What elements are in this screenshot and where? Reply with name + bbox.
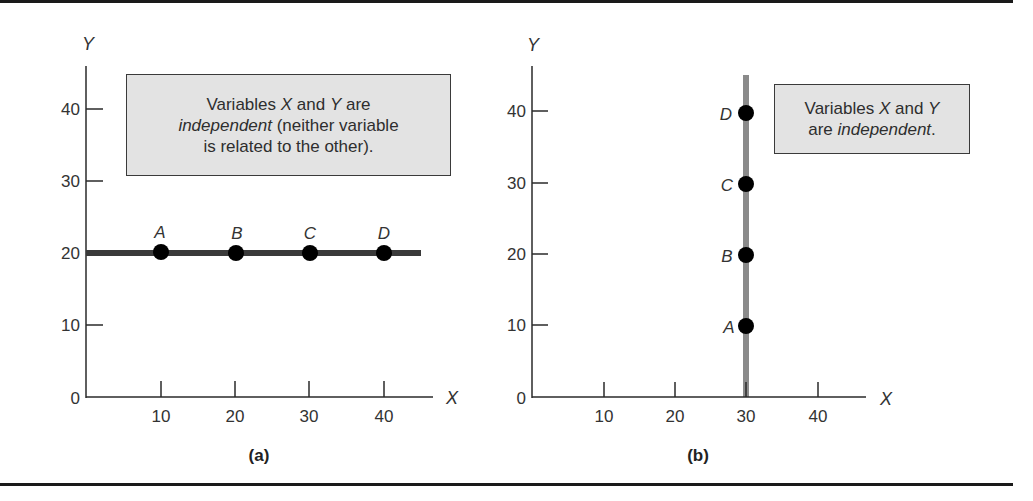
panel-a-x-tick-label: 40 xyxy=(375,407,394,426)
panel-b-point-a xyxy=(738,318,754,334)
annotation-var-x: X xyxy=(281,95,292,114)
panel-a-y-tick-label: 0 xyxy=(71,389,80,408)
panel-a-annotation-line2: independent (neither variable xyxy=(127,115,450,136)
panel-b-point-label: A xyxy=(722,318,734,337)
panel-a-x-tick-label: 30 xyxy=(300,407,319,426)
panel-a-annotation-box: Variables X and Y are independent (neith… xyxy=(126,74,451,176)
panel-b-annotation-line1: Variables X and Y xyxy=(775,98,969,119)
annotation-text: and xyxy=(292,95,330,114)
panel-a-annotation-line1: Variables X and Y are xyxy=(127,94,450,115)
panel-b-point-c xyxy=(738,176,754,192)
panel-b-point-d xyxy=(738,105,754,121)
annotation-text: (neither variable xyxy=(272,116,399,135)
panel-b-caption: (b) xyxy=(687,446,709,465)
annotation-text: Variables xyxy=(805,99,879,118)
panel-a-y-axis-title: Y xyxy=(82,34,96,54)
panel-a-y-tick-label: 10 xyxy=(61,316,80,335)
panel-a-point-label: A xyxy=(153,223,165,242)
panel-a-caption: (a) xyxy=(249,446,270,465)
panel-b-x-axis-title: X xyxy=(879,389,893,409)
panel-a-point-label: B xyxy=(231,224,242,243)
panel-a-annotation-line3: is related to the other). xyxy=(127,136,450,157)
panel-a-y-tick-label: 40 xyxy=(61,100,80,119)
panel-b-point-label: C xyxy=(721,176,734,195)
annotation-var-y: Y xyxy=(928,99,939,118)
panel-b-point-label: D xyxy=(720,105,732,124)
panel-b-y-tick-label: 40 xyxy=(507,102,526,121)
panel-a-x-tick-label: 10 xyxy=(152,407,171,426)
annotation-var-x: X xyxy=(879,99,890,118)
annotation-text: are xyxy=(341,95,370,114)
panel-b-point-b xyxy=(738,247,754,263)
panel-b-point-label: B xyxy=(721,247,732,266)
annotation-emphasis: independent xyxy=(178,116,272,135)
panel-a-point-c xyxy=(302,245,318,261)
panel-b-annotation-line2: are independent. xyxy=(775,119,969,140)
panel-a-point-label: D xyxy=(378,224,390,243)
panel-a-x-tick-label: 20 xyxy=(226,407,245,426)
panel-b-x-tick-label: 30 xyxy=(737,407,756,426)
annotation-text: are xyxy=(808,120,837,139)
panel-a-point-a xyxy=(153,244,169,260)
panel-a-x-axis-title: X xyxy=(445,388,459,408)
annotation-text: . xyxy=(931,120,936,139)
annotation-text: and xyxy=(890,99,928,118)
panel-a-point-d xyxy=(376,245,392,261)
panel-b-annotation-box: Variables X and Y are independent. xyxy=(774,84,970,154)
panel-b-x-tick-label: 20 xyxy=(666,407,685,426)
panel-b-x-tick-label: 40 xyxy=(809,407,828,426)
panel-a-point-label: C xyxy=(304,224,317,243)
panel-b-y-tick-label: 10 xyxy=(507,316,526,335)
panel-a-point-b xyxy=(228,245,244,261)
panel-a-y-tick-label: 30 xyxy=(61,172,80,191)
annotation-text: Variables xyxy=(206,95,280,114)
annotation-emphasis: independent xyxy=(837,120,931,139)
panel-b-y-axis-title: Y xyxy=(527,35,541,55)
panel-b-x-tick-label: 10 xyxy=(595,407,614,426)
panel-b-y-tick-label: 0 xyxy=(517,389,526,408)
panel-b-y-tick-label: 20 xyxy=(507,245,526,264)
panel-b-y-tick-label: 30 xyxy=(507,174,526,193)
panel-a-y-tick-label: 20 xyxy=(61,244,80,263)
annotation-var-y: Y xyxy=(330,95,341,114)
